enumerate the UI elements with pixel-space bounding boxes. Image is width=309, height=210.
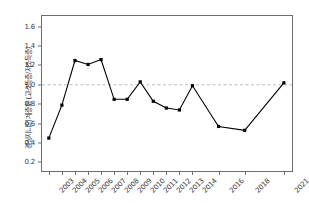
data-point [152,100,155,103]
y-tick-label: 0.6 [13,120,35,128]
x-tick-mark [179,172,180,175]
x-tick-mark [192,172,193,175]
data-point [243,129,246,132]
chart-figure: 경상지니의 계층화 (고소득층/저소득층) 0.20.40.60.81.01.2… [0,0,309,210]
y-tick-label: 1.0 [13,81,35,89]
data-point [113,98,116,101]
data-point [282,81,285,84]
data-point [86,63,89,66]
y-tick-mark [38,162,41,163]
y-tick-mark [38,142,41,143]
data-point [99,58,102,61]
data-point [73,59,76,62]
x-tick-mark [49,172,50,175]
data-point [47,136,50,139]
data-point [60,104,63,107]
y-tick-mark [38,104,41,105]
y-tick-mark [38,123,41,124]
y-tick-mark [38,46,41,47]
y-tick-label: 1.2 [13,61,35,69]
data-point [139,80,142,83]
x-tick-mark [127,172,128,175]
y-tick-label: 0.4 [13,139,35,147]
x-tick-mark [166,172,167,175]
x-tick-mark [114,172,115,175]
y-tick-label: 1.4 [13,42,35,50]
data-line [49,60,284,139]
data-point [178,108,181,111]
y-tick-mark [38,26,41,27]
y-tick-label: 0.8 [13,100,35,108]
x-tick-mark [219,172,220,175]
x-tick-mark [284,172,285,175]
data-point [191,84,194,87]
x-tick-mark [245,172,246,175]
y-tick-mark [38,65,41,66]
x-tick-mark [75,172,76,175]
data-point [165,106,168,109]
y-tick-label: 0.2 [13,158,35,166]
x-tick-mark [140,172,141,175]
x-tick-mark [101,172,102,175]
x-tick-mark [88,172,89,175]
y-tick-mark [38,84,41,85]
x-tick-mark [153,172,154,175]
data-point [217,125,220,128]
x-tick-mark [62,172,63,175]
y-tick-label: 1.6 [13,23,35,31]
data-point [126,98,129,101]
data-markers [47,58,285,140]
